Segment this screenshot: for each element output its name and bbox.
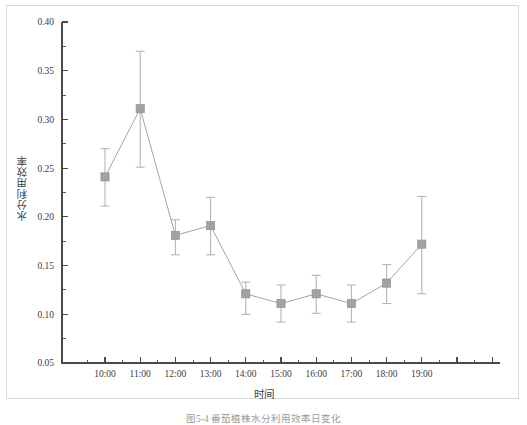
data-point-marker (207, 222, 215, 230)
x-tick-labels: 10:0011:0012:0013:0014:0015:0016:0017:00… (94, 369, 433, 379)
x-tick-label: 16:00 (305, 369, 327, 379)
x-tick-label: 15:00 (270, 369, 292, 379)
y-tick-label: 0.25 (37, 164, 54, 174)
data-point-marker (418, 240, 426, 248)
data-point-marker (347, 299, 355, 307)
data-point-marker (277, 299, 285, 307)
error-bars-group (101, 51, 427, 322)
y-tick-label: 0.15 (37, 261, 54, 271)
chart-plot-area: 0.050.100.150.200.250.300.350.40 10:0011… (0, 0, 527, 425)
data-point-marker (101, 173, 109, 181)
x-tick-label: 19:00 (411, 369, 433, 379)
data-point-marker (136, 105, 144, 113)
figure-caption: 图5-4 番茄植株水分利用效率日变化 (0, 411, 527, 425)
y-tick-label: 0.20 (37, 212, 54, 222)
y-tick-label: 0.40 (37, 17, 54, 27)
x-tick-label: 18:00 (376, 369, 398, 379)
y-tick-label: 0.05 (37, 358, 54, 368)
x-tick-label: 17:00 (341, 369, 363, 379)
y-tick-label: 0.10 (37, 310, 54, 320)
x-tick-label: 10:00 (94, 369, 116, 379)
x-tick-label: 14:00 (235, 369, 257, 379)
x-tick-label: 11:00 (130, 369, 152, 379)
x-tick-label: 12:00 (165, 369, 187, 379)
figure-chart-water-use-efficiency: 0.050.100.150.200.250.300.350.40 10:0011… (0, 0, 527, 425)
series-line (105, 109, 422, 304)
data-point-marker (171, 231, 179, 239)
y-tick-label: 0.35 (37, 66, 54, 76)
data-point-marker (383, 279, 391, 287)
data-point-marker (242, 290, 250, 298)
data-point-marker (312, 290, 320, 298)
x-axis-title: 时间 (0, 386, 527, 401)
y-tick-label: 0.30 (37, 115, 54, 125)
series-line-group (105, 109, 422, 304)
y-axis-title: 水分利用效率 (17, 155, 35, 221)
y-tick-labels: 0.050.100.150.200.250.300.350.40 (37, 17, 54, 368)
data-markers-group (101, 105, 426, 308)
x-tick-label: 13:00 (200, 369, 222, 379)
